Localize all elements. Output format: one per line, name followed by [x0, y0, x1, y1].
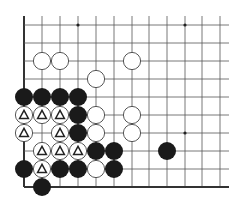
black-stone-icon	[15, 88, 33, 106]
black-stone[interactable]	[51, 88, 69, 106]
white-stone[interactable]	[123, 106, 140, 123]
black-stone-icon	[69, 106, 87, 124]
white-marked-stone[interactable]	[15, 106, 32, 123]
black-stone[interactable]	[69, 106, 87, 124]
white-marked-stone[interactable]	[51, 142, 68, 159]
black-stone-icon	[15, 160, 33, 178]
black-stone[interactable]	[15, 160, 33, 178]
black-stone-icon	[87, 142, 105, 160]
black-stone[interactable]	[105, 142, 123, 160]
white-marked-stone[interactable]	[69, 142, 86, 159]
white-stone-icon	[87, 160, 104, 177]
white-marked-stone[interactable]	[51, 124, 68, 141]
black-stone-icon	[33, 88, 51, 106]
black-stone-icon	[51, 160, 69, 178]
white-marked-stone[interactable]	[33, 142, 50, 159]
black-stone[interactable]	[105, 160, 123, 178]
white-marked-stone[interactable]	[15, 124, 32, 141]
white-marked-stone[interactable]	[33, 160, 50, 177]
black-stone[interactable]	[69, 88, 87, 106]
white-stone-icon	[87, 106, 104, 123]
white-stone-icon	[87, 124, 104, 141]
white-stone-icon	[51, 52, 68, 69]
black-stone[interactable]	[69, 160, 87, 178]
white-stone[interactable]	[87, 160, 104, 177]
white-stone[interactable]	[87, 106, 104, 123]
star-point-icon	[76, 23, 79, 26]
black-stone[interactable]	[87, 142, 105, 160]
black-stone[interactable]	[15, 88, 33, 106]
stones-layer	[15, 52, 176, 196]
white-marked-stone[interactable]	[51, 106, 68, 123]
black-stone-icon	[69, 160, 87, 178]
black-stone-icon	[105, 160, 123, 178]
white-stone[interactable]	[123, 52, 140, 69]
white-stone[interactable]	[87, 70, 104, 87]
black-stone-icon	[69, 88, 87, 106]
black-stone-icon	[69, 124, 87, 142]
white-stone[interactable]	[123, 124, 140, 141]
black-stone-icon	[51, 88, 69, 106]
white-stone[interactable]	[33, 52, 50, 69]
black-stone[interactable]	[33, 178, 51, 196]
star-point-icon	[183, 23, 186, 26]
white-stone-icon	[123, 52, 140, 69]
white-stone[interactable]	[51, 52, 68, 69]
white-stone-icon	[123, 106, 140, 123]
go-board[interactable]	[0, 0, 243, 206]
white-stone-icon	[87, 70, 104, 87]
black-stone[interactable]	[158, 142, 176, 160]
black-stone[interactable]	[51, 160, 69, 178]
black-stone[interactable]	[33, 88, 51, 106]
white-stone-icon	[123, 124, 140, 141]
black-stone-icon	[105, 142, 123, 160]
black-stone-icon	[158, 142, 176, 160]
white-stone[interactable]	[87, 124, 104, 141]
white-marked-stone[interactable]	[33, 106, 50, 123]
star-point-icon	[183, 131, 186, 134]
black-stone[interactable]	[69, 124, 87, 142]
white-stone-icon	[33, 52, 50, 69]
black-stone-icon	[33, 178, 51, 196]
